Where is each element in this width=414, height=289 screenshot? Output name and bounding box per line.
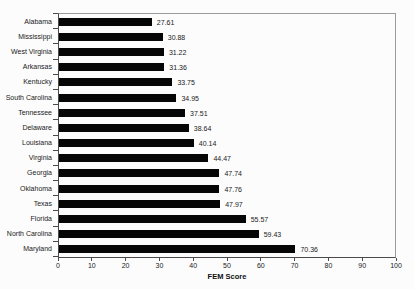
- bar-row: Oklahoma47.76: [59, 181, 395, 196]
- y-axis-tick: [53, 43, 58, 44]
- bar-row: Tennessee37.51: [59, 105, 395, 120]
- value-label: 47.76: [224, 185, 242, 192]
- y-axis-tick: [53, 135, 58, 136]
- y-axis-tick: [53, 150, 58, 151]
- x-axis-tick-label: 80: [324, 262, 332, 269]
- category-label: Texas: [34, 200, 52, 208]
- value-label: 55.57: [251, 216, 269, 223]
- bar: 59.43: [59, 230, 259, 238]
- category-label: Delaware: [22, 124, 52, 132]
- y-axis-tick: [53, 119, 58, 120]
- bar: 40.14: [59, 139, 194, 147]
- category-label: Mississippi: [18, 33, 52, 41]
- value-label: 47.97: [225, 200, 243, 207]
- x-axis-tick-label: 0: [56, 262, 60, 269]
- y-axis-tick: [53, 241, 58, 242]
- y-axis-tick: [53, 180, 58, 181]
- x-axis: 0102030405060708090100: [58, 258, 396, 272]
- bar: 38.64: [59, 124, 189, 132]
- bar-row: Louisiana40.14: [59, 136, 395, 151]
- category-label: Tennessee: [18, 109, 52, 117]
- bar: 27.61: [59, 18, 152, 26]
- x-axis-tick-label: 50: [223, 262, 231, 269]
- category-label: Georgia: [27, 169, 52, 177]
- fem-score-bar-chart: Alabama27.61Mississippi30.88West Virgini…: [0, 0, 414, 289]
- x-axis-tick: [193, 258, 194, 261]
- value-label: 40.14: [199, 140, 217, 147]
- x-axis-tick-label: 40: [189, 262, 197, 269]
- x-axis-tick: [396, 258, 397, 261]
- y-axis-tick: [53, 59, 58, 60]
- bar-row: Maryland70.36: [59, 242, 395, 257]
- y-axis-tick: [53, 226, 58, 227]
- bar-row: North Carolina59.43: [59, 227, 395, 242]
- x-axis-title: FEM Score: [58, 272, 396, 281]
- category-label: South Carolina: [6, 94, 52, 102]
- y-axis-tick: [53, 89, 58, 90]
- x-axis-tick: [125, 258, 126, 261]
- x-axis-tick-label: 30: [155, 262, 163, 269]
- bar-row: South Carolina34.95: [59, 90, 395, 105]
- y-axis-tick: [53, 104, 58, 105]
- y-axis-tick: [53, 165, 58, 166]
- category-label: North Carolina: [7, 230, 52, 238]
- bar: 70.36: [59, 245, 295, 253]
- bar-row: Kentucky33.75: [59, 75, 395, 90]
- x-axis-tick: [260, 258, 261, 261]
- bar-row: West Virginia31.22: [59, 44, 395, 59]
- x-axis-tick: [227, 258, 228, 261]
- x-axis-tick-label: 90: [358, 262, 366, 269]
- y-axis-tick: [53, 74, 58, 75]
- bar: 34.95: [59, 94, 176, 102]
- category-label: Alabama: [24, 18, 52, 26]
- x-axis-tick: [91, 258, 92, 261]
- x-axis-tick-label: 70: [291, 262, 299, 269]
- category-label: Arkansas: [23, 63, 52, 71]
- bar-row: Mississippi30.88: [59, 29, 395, 44]
- value-label: 44.47: [213, 155, 231, 162]
- value-label: 37.51: [190, 109, 208, 116]
- category-label: Kentucky: [23, 78, 52, 86]
- y-axis-tick: [53, 13, 58, 14]
- bar: 37.51: [59, 109, 185, 117]
- value-label: 31.36: [169, 64, 187, 71]
- value-label: 30.88: [168, 33, 186, 40]
- bar: 31.36: [59, 63, 164, 71]
- value-label: 38.64: [194, 124, 212, 131]
- x-axis-tick: [362, 258, 363, 261]
- value-label: 59.43: [264, 231, 282, 238]
- x-axis-tick: [294, 258, 295, 261]
- y-axis-tick: [53, 210, 58, 211]
- category-label: Oklahoma: [20, 185, 52, 193]
- x-axis-tick-label: 20: [122, 262, 130, 269]
- x-axis-tick: [159, 258, 160, 261]
- value-label: 27.61: [157, 18, 175, 25]
- value-label: 70.36: [300, 246, 318, 253]
- y-axis-tick: [53, 256, 58, 257]
- x-axis-tick-label: 60: [257, 262, 265, 269]
- value-label: 33.75: [177, 79, 195, 86]
- bar: 44.47: [59, 154, 208, 162]
- x-axis-tick: [58, 258, 59, 261]
- bar: 31.22: [59, 48, 164, 56]
- bar: 47.74: [59, 169, 219, 177]
- x-axis-tick-label: 100: [390, 262, 402, 269]
- y-axis-tick: [53, 195, 58, 196]
- y-axis-tick: [53, 28, 58, 29]
- bar-row: Delaware38.64: [59, 120, 395, 135]
- bar-row: Arkansas31.36: [59, 60, 395, 75]
- plot-area: Alabama27.61Mississippi30.88West Virgini…: [58, 13, 396, 258]
- x-axis-tick: [328, 258, 329, 261]
- bar: 47.97: [59, 200, 220, 208]
- bar-row: Virginia44.47: [59, 151, 395, 166]
- bar: 30.88: [59, 33, 163, 41]
- bar: 55.57: [59, 215, 246, 223]
- category-label: Louisiana: [22, 139, 52, 147]
- category-label: Maryland: [23, 245, 52, 253]
- bar-row: Alabama27.61: [59, 14, 395, 29]
- category-label: Florida: [31, 215, 52, 223]
- category-label: West Virginia: [11, 48, 52, 56]
- bar: 33.75: [59, 78, 172, 86]
- bar: 47.76: [59, 185, 219, 193]
- value-label: 47.74: [224, 170, 242, 177]
